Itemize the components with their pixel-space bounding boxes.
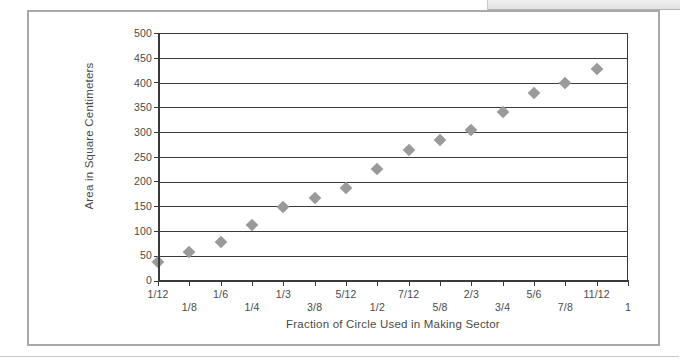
y-tick-label-50: 50 xyxy=(112,249,152,261)
y-tick-label-100: 100 xyxy=(112,225,152,237)
y-tick-label-300: 300 xyxy=(112,126,152,138)
x-tick-label: 2/3 xyxy=(451,288,491,300)
x-tick-mark xyxy=(534,281,535,286)
x-axis-line xyxy=(158,280,629,282)
x-tick-mark xyxy=(221,281,222,286)
data-point xyxy=(590,63,603,76)
data-point xyxy=(246,219,259,232)
data-point xyxy=(340,181,353,194)
gridline-450 xyxy=(158,58,628,59)
plot-area xyxy=(158,33,628,281)
x-tick-label: 3/4 xyxy=(483,301,523,313)
data-point xyxy=(434,134,447,147)
y-tick-label-350: 350 xyxy=(112,101,152,113)
y-tick-label-200: 200 xyxy=(112,175,152,187)
x-tick-label: 1/8 xyxy=(169,301,209,313)
plot-right-edge xyxy=(627,33,628,282)
x-tick-label: 7/12 xyxy=(389,288,429,300)
gridline-150 xyxy=(158,206,628,207)
gridline-500 xyxy=(158,33,628,34)
x-tick-label: 1 xyxy=(608,301,648,313)
x-axis-title: Fraction of Circle Used in Making Sector xyxy=(158,318,628,330)
x-tick-label: 5/8 xyxy=(420,301,460,313)
gridline-100 xyxy=(158,231,628,232)
x-tick-mark xyxy=(440,281,441,286)
x-tick-mark xyxy=(597,281,598,286)
x-tick-mark xyxy=(377,281,378,286)
page-bottom-rule xyxy=(0,356,679,357)
gridline-300 xyxy=(158,132,628,133)
x-tick-mark xyxy=(565,281,566,286)
x-tick-mark xyxy=(409,281,410,286)
y-tick-label-150: 150 xyxy=(112,200,152,212)
y-tick-label-250: 250 xyxy=(112,151,152,163)
x-tick-mark xyxy=(628,281,629,286)
x-tick-label: 7/8 xyxy=(545,301,585,313)
x-tick-mark xyxy=(315,281,316,286)
x-tick-mark xyxy=(252,281,253,286)
x-tick-mark xyxy=(189,281,190,286)
y-axis-title: Area in Square Centimeters xyxy=(83,36,95,236)
gridline-200 xyxy=(158,182,628,183)
data-point xyxy=(214,236,227,249)
x-tick-mark xyxy=(503,281,504,286)
data-point xyxy=(371,163,384,176)
x-tick-label: 3/8 xyxy=(295,301,335,313)
gridline-400 xyxy=(158,83,628,84)
y-axis-line xyxy=(158,33,160,282)
gridline-350 xyxy=(158,107,628,108)
data-point xyxy=(465,124,478,137)
data-point xyxy=(528,87,541,100)
x-tick-label: 1/2 xyxy=(357,301,397,313)
y-tick-label-400: 400 xyxy=(112,77,152,89)
x-tick-label: 11/12 xyxy=(577,288,617,300)
x-tick-label: 1/6 xyxy=(201,288,241,300)
gridline-250 xyxy=(158,157,628,158)
y-axis-tick-labels: 500 450 400 350 300 250 200 150 100 50 0 xyxy=(108,0,152,300)
x-tick-mark xyxy=(346,281,347,286)
gridline-50 xyxy=(158,256,628,257)
x-tick-label: 1/4 xyxy=(232,301,272,313)
y-tick-label-450: 450 xyxy=(112,52,152,64)
data-point xyxy=(277,200,290,213)
x-tick-label: 5/6 xyxy=(514,288,554,300)
x-tick-label: 1/12 xyxy=(138,288,178,300)
x-tick-label: 5/12 xyxy=(326,288,366,300)
data-point xyxy=(402,144,415,157)
x-tick-mark xyxy=(283,281,284,286)
y-tick-label-500: 500 xyxy=(112,27,152,39)
x-tick-label: 1/3 xyxy=(263,288,303,300)
x-tick-mark xyxy=(471,281,472,286)
y-tick-label-0: 0 xyxy=(112,274,152,286)
data-point xyxy=(559,76,572,89)
data-point xyxy=(308,191,321,204)
x-tick-mark xyxy=(158,281,159,286)
